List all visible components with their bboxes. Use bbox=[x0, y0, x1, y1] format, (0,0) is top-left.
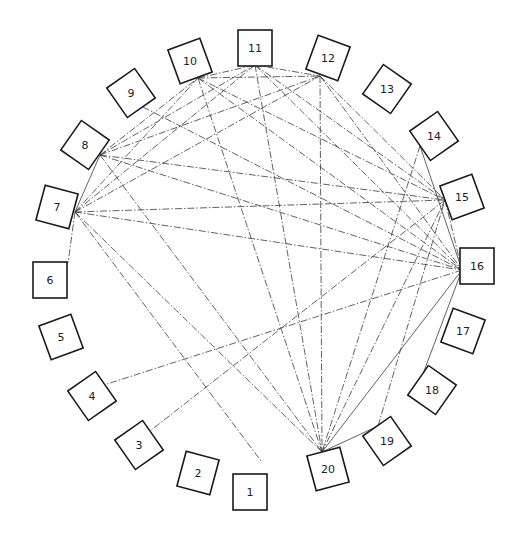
node-12: 12 bbox=[306, 35, 350, 80]
node-19: 19 bbox=[363, 417, 411, 466]
edge-10-15 bbox=[198, 78, 445, 200]
node-label: 11 bbox=[248, 42, 262, 55]
node-label: 17 bbox=[456, 325, 470, 338]
node-label: 4 bbox=[89, 390, 96, 403]
node-18: 18 bbox=[408, 366, 456, 415]
node-7: 7 bbox=[36, 185, 78, 229]
node-11: 11 bbox=[238, 30, 272, 66]
node-17: 17 bbox=[441, 308, 485, 353]
node-label: 2 bbox=[195, 467, 202, 480]
node-1: 1 bbox=[233, 474, 267, 510]
edge-7-20 bbox=[75, 212, 322, 452]
edge-11-16 bbox=[255, 65, 462, 270]
edge-7-16 bbox=[75, 212, 462, 270]
network-diagram: 1234567891011121314151617181920 bbox=[0, 0, 519, 538]
node-15: 15 bbox=[440, 174, 484, 219]
node-label: 14 bbox=[427, 130, 441, 143]
edge-15-20 bbox=[322, 200, 445, 452]
node-label: 1 bbox=[247, 486, 254, 499]
edge-layer bbox=[68, 65, 462, 461]
edge-10-16 bbox=[198, 78, 462, 270]
node-14: 14 bbox=[410, 112, 458, 161]
node-2: 2 bbox=[177, 451, 219, 495]
node-3: 3 bbox=[115, 421, 163, 470]
node-label: 3 bbox=[136, 439, 143, 452]
node-label: 6 bbox=[47, 274, 54, 287]
node-20: 20 bbox=[307, 447, 349, 491]
node-16: 16 bbox=[460, 248, 494, 284]
node-layer: 1234567891011121314151617181920 bbox=[33, 30, 494, 510]
node-label: 13 bbox=[380, 83, 394, 96]
node-label: 8 bbox=[82, 139, 89, 152]
node-label: 10 bbox=[183, 55, 197, 68]
node-label: 5 bbox=[58, 331, 65, 344]
edge-8-20 bbox=[100, 155, 322, 452]
edge-7-1 bbox=[75, 212, 261, 461]
node-label: 19 bbox=[380, 435, 394, 448]
node-label: 16 bbox=[470, 260, 484, 273]
node-label: 20 bbox=[321, 463, 335, 476]
node-label: 18 bbox=[425, 384, 439, 397]
node-label: 15 bbox=[455, 191, 469, 204]
node-5: 5 bbox=[39, 314, 83, 359]
node-label: 7 bbox=[54, 201, 61, 214]
node-6: 6 bbox=[33, 262, 67, 298]
node-label: 9 bbox=[128, 87, 135, 100]
node-10: 10 bbox=[168, 38, 212, 83]
node-label: 12 bbox=[321, 52, 335, 65]
edge-15-3 bbox=[150, 200, 445, 431]
edge-16-4 bbox=[107, 270, 462, 384]
node-9: 9 bbox=[107, 69, 155, 118]
node-4: 4 bbox=[68, 372, 116, 421]
node-8: 8 bbox=[61, 121, 109, 170]
edge-12-20 bbox=[320, 76, 322, 452]
edge-10-20 bbox=[198, 78, 322, 452]
edge-8-16 bbox=[100, 155, 462, 270]
edge-8-15 bbox=[100, 155, 445, 200]
edge-10-12 bbox=[198, 76, 320, 78]
node-13: 13 bbox=[363, 65, 411, 114]
